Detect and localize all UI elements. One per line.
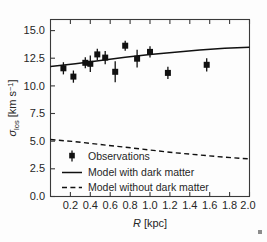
- y-tick-label-1: 2.5: [30, 162, 45, 174]
- legend-item-observations: Observations: [69, 150, 150, 162]
- data-point: [60, 62, 66, 74]
- y-axis-title-exp: −1: [6, 82, 15, 91]
- data-point: [147, 46, 153, 57]
- y-axis-title: σlos [km s−1]: [6, 79, 21, 136]
- x-axis-title: R [kpc]: [133, 217, 167, 229]
- y-tick-label-5: 12.5: [24, 52, 45, 64]
- model-without-dark-matter-line: [51, 140, 250, 159]
- figure-container: 0.0 2.5 5.0 7.5 10.0 12.5 15.0 0.2 0.4 0…: [0, 0, 267, 242]
- x-tick-label-5: 1.2: [162, 199, 177, 211]
- y-tick-label-4: 10.0: [24, 80, 45, 92]
- data-point: [204, 58, 210, 71]
- x-tick-label-9: 2.0: [240, 199, 255, 211]
- x-tick-label-4: 1.0: [142, 199, 157, 211]
- y-axis-title-sub: los: [12, 120, 21, 130]
- x-tick-label-2: 0.6: [103, 199, 118, 211]
- velocity-dispersion-chart: 0.0 2.5 5.0 7.5 10.0 12.5 15.0 0.2 0.4 0…: [0, 0, 267, 242]
- x-tick-label-6: 1.4: [182, 199, 197, 211]
- x-tick-label-0: 0.2: [63, 199, 78, 211]
- data-point: [94, 49, 100, 60]
- legend-item-model-without-dm: Model without dark matter: [62, 181, 209, 193]
- legend-item-model-with-dm: Model with dark matter: [62, 166, 195, 178]
- legend-label-observations: Observations: [88, 150, 150, 162]
- legend-label-model-without-dark-matter: Model without dark matter: [88, 181, 209, 193]
- data-point: [70, 71, 76, 83]
- data-point: [112, 61, 118, 82]
- x-tick-label-1: 0.4: [83, 199, 98, 211]
- data-point: [122, 41, 128, 51]
- scan-corner-artifact: [258, 230, 262, 234]
- y-tick-label-0: 0.0: [30, 190, 45, 202]
- svg-text:σlos [km s−1]: σlos [km s−1]: [6, 79, 21, 136]
- x-tick-label-3: 0.8: [122, 199, 137, 211]
- data-point: [134, 50, 140, 68]
- legend-label-model-with-dark-matter: Model with dark matter: [88, 166, 195, 178]
- data-point: [87, 56, 93, 73]
- y-tick-label-2: 5.0: [30, 135, 45, 147]
- y-tick-label-6: 15.0: [24, 24, 45, 36]
- data-point: [102, 51, 108, 64]
- x-tick-label-8: 1.8: [222, 199, 237, 211]
- x-axis-title-symbol: R: [133, 217, 141, 229]
- legend-marker-observations: [69, 153, 75, 159]
- data-point: [165, 67, 171, 79]
- y-tick-label-3: 7.5: [30, 107, 45, 119]
- x-tick-label-7: 1.6: [202, 199, 217, 211]
- observation-points: [60, 41, 209, 83]
- svg-text:R [kpc]: R [kpc]: [133, 217, 167, 229]
- chart-legend: Observations Model with dark matter Mode…: [62, 150, 209, 193]
